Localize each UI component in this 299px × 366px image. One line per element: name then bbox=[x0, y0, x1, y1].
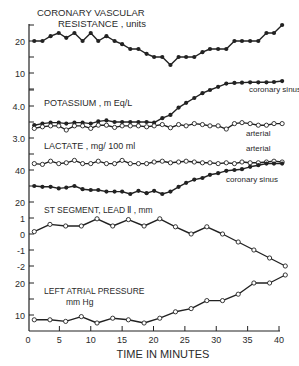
series-label: arterial bbox=[246, 144, 271, 153]
filled-marker bbox=[160, 192, 164, 196]
open-marker bbox=[48, 222, 52, 226]
open-marker bbox=[89, 126, 93, 130]
open-marker bbox=[142, 321, 146, 325]
x-tick-label: 40 bbox=[274, 335, 284, 345]
open-marker bbox=[32, 126, 36, 130]
filled-marker bbox=[200, 50, 204, 54]
series-line bbox=[34, 25, 282, 65]
open-marker bbox=[232, 162, 236, 166]
open-marker bbox=[177, 160, 181, 164]
series-layer bbox=[32, 23, 287, 325]
filled-marker bbox=[248, 80, 252, 84]
filled-marker bbox=[80, 187, 84, 191]
filled-marker bbox=[64, 36, 68, 40]
filled-marker bbox=[208, 47, 212, 51]
open-marker bbox=[80, 124, 84, 128]
open-marker bbox=[126, 218, 130, 222]
open-marker bbox=[224, 161, 228, 165]
filled-marker bbox=[248, 39, 252, 43]
axes-layer: 10203.04.0204010-1-210200510152025303540 bbox=[12, 24, 284, 345]
panel-title: LACTATE , mg/ 100 ml bbox=[44, 141, 135, 151]
open-marker bbox=[184, 124, 188, 128]
y-tick-label: 40 bbox=[15, 166, 25, 176]
y-tick-label: -1 bbox=[17, 246, 25, 256]
open-marker bbox=[72, 124, 76, 128]
y-tick-label: -2 bbox=[17, 262, 25, 272]
filled-marker bbox=[256, 163, 260, 167]
open-marker bbox=[112, 125, 116, 129]
filled-marker bbox=[208, 88, 212, 92]
open-marker bbox=[240, 121, 244, 125]
open-marker bbox=[189, 307, 193, 311]
open-marker bbox=[189, 232, 193, 236]
open-marker bbox=[205, 225, 209, 229]
series-label: arterial bbox=[246, 129, 271, 138]
open-marker bbox=[177, 122, 181, 126]
open-marker bbox=[111, 224, 115, 228]
open-marker bbox=[104, 123, 108, 127]
series-line bbox=[34, 219, 285, 266]
y-tick-label: 10 bbox=[15, 69, 25, 79]
filled-marker bbox=[40, 39, 44, 43]
open-marker bbox=[32, 230, 36, 234]
panel-title: CORONARY VASCULAR bbox=[37, 7, 145, 18]
open-marker bbox=[57, 162, 61, 166]
open-marker bbox=[152, 160, 156, 164]
y-tick-label: 20 bbox=[15, 279, 25, 289]
open-marker bbox=[200, 161, 204, 165]
x-tick-label: 20 bbox=[148, 335, 158, 345]
filled-marker bbox=[184, 55, 188, 59]
open-marker bbox=[248, 122, 252, 126]
open-marker bbox=[64, 128, 68, 132]
filled-marker bbox=[72, 31, 76, 35]
open-marker bbox=[120, 158, 124, 162]
open-marker bbox=[95, 321, 99, 325]
filled-marker bbox=[216, 47, 220, 51]
filled-marker bbox=[272, 31, 276, 35]
open-marker bbox=[112, 162, 116, 166]
filled-marker bbox=[192, 178, 196, 182]
open-marker bbox=[192, 122, 196, 126]
filled-marker bbox=[240, 167, 244, 171]
open-marker bbox=[72, 158, 76, 162]
x-tick-label: 10 bbox=[86, 335, 96, 345]
open-marker bbox=[160, 159, 164, 163]
filled-marker bbox=[128, 47, 132, 51]
filled-marker bbox=[177, 106, 181, 110]
panel-subtitle: mm Hg bbox=[66, 297, 94, 307]
open-marker bbox=[283, 273, 287, 277]
open-marker bbox=[236, 240, 240, 244]
filled-marker bbox=[248, 165, 252, 169]
open-marker bbox=[184, 159, 188, 163]
filled-marker bbox=[208, 173, 212, 177]
series-label: coronary sinus bbox=[249, 85, 299, 94]
filled-marker bbox=[32, 39, 36, 43]
open-marker bbox=[79, 315, 83, 319]
open-marker bbox=[136, 124, 140, 128]
filled-marker bbox=[144, 120, 148, 124]
open-marker bbox=[128, 162, 132, 166]
filled-marker bbox=[264, 80, 268, 84]
filled-marker bbox=[112, 120, 116, 124]
filled-marker bbox=[224, 47, 228, 51]
filled-marker bbox=[216, 171, 220, 175]
open-marker bbox=[64, 161, 68, 165]
filled-marker bbox=[224, 169, 228, 173]
open-marker bbox=[220, 232, 224, 236]
open-marker bbox=[95, 217, 99, 221]
filled-marker bbox=[57, 31, 61, 35]
x-tick-label: 25 bbox=[180, 335, 190, 345]
open-marker bbox=[283, 264, 287, 268]
filled-marker bbox=[177, 55, 181, 59]
chart-figure: 10203.04.0204010-1-210200510152025303540… bbox=[0, 0, 299, 366]
open-marker bbox=[224, 127, 228, 131]
filled-marker bbox=[96, 39, 100, 43]
filled-marker bbox=[72, 184, 76, 188]
open-marker bbox=[136, 162, 140, 166]
open-marker bbox=[64, 319, 68, 323]
filled-marker bbox=[57, 186, 61, 190]
open-marker bbox=[168, 161, 172, 165]
filled-marker bbox=[64, 186, 68, 190]
x-tick-label: 15 bbox=[117, 335, 127, 345]
filled-marker bbox=[136, 189, 140, 193]
